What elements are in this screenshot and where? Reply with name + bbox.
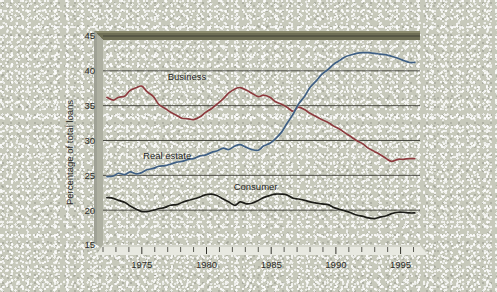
y-tick-label: 45 (84, 30, 95, 41)
x-tick-label: 1990 (325, 259, 346, 270)
y-tick-label: 25 (84, 170, 95, 181)
series-label: Real estate (143, 150, 191, 161)
chart-bevel-frame (94, 31, 420, 249)
x-tick-label: 1985 (261, 259, 282, 270)
y-tick-label: 35 (84, 100, 95, 111)
y-axis-title: Percentage of total loans (64, 100, 75, 205)
y-axis-tick-labels: 15202530354045 (84, 30, 95, 250)
x-axis-ruler (96, 245, 428, 255)
line-chart: 15202530354045 19751980198519901995 Busi… (0, 0, 497, 292)
x-axis-tick-labels: 19751980198519901995 (131, 259, 411, 270)
y-tick-label: 40 (84, 65, 95, 76)
x-tick-label: 1975 (131, 259, 152, 270)
series-label: Business (168, 71, 207, 82)
x-tick-label: 1995 (390, 259, 411, 270)
y-tick-label: 15 (84, 239, 95, 250)
series-label: Consumer (234, 181, 278, 192)
series-annotations: BusinessReal estateConsumer (143, 71, 277, 192)
y-tick-label: 20 (84, 205, 95, 216)
y-tick-label: 30 (84, 135, 95, 146)
plot-container: 15202530354045 19751980198519901995 Busi… (0, 0, 497, 292)
series-halo (107, 194, 415, 219)
data-series-group (107, 53, 415, 219)
chart-figure: 15202530354045 19751980198519901995 Busi… (0, 0, 497, 292)
x-tick-label: 1980 (196, 259, 217, 270)
